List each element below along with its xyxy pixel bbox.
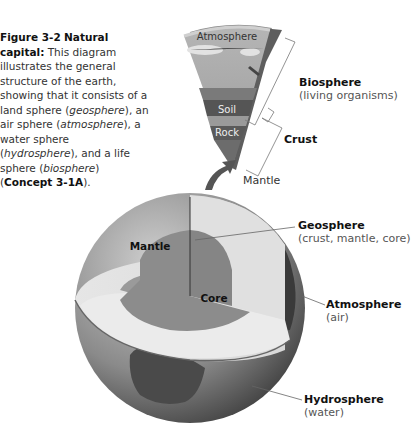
callout-title: Crust: [284, 133, 317, 146]
wedge-rock-label: Rock: [215, 127, 239, 138]
globe-mantle-label: Mantle: [130, 240, 171, 252]
callout-title: Hydrosphere: [304, 393, 384, 406]
callout-hydrosphere: Hydrosphere (water): [304, 393, 384, 419]
callout-mantle: Mantle: [243, 174, 280, 187]
globe-core-label: Core: [200, 292, 227, 304]
callout-biosphere: Biosphere (living organisms): [299, 76, 398, 102]
callout-subtitle: (air): [326, 311, 401, 324]
callout-atmosphere: Atmosphere (air): [326, 298, 401, 324]
crust-wedge: Atmosphere Soil Rock: [184, 25, 282, 170]
callout-crust: Crust: [284, 133, 317, 146]
callout-title: Atmosphere: [326, 298, 401, 311]
callout-subtitle: (living organisms): [299, 89, 398, 102]
earth-globe: Mantle Core: [75, 193, 305, 423]
callout-title: Geosphere: [298, 219, 411, 232]
callout-subtitle: (crust, mantle, core): [298, 232, 411, 245]
callout-title: Biosphere: [299, 76, 398, 89]
callout-title: Mantle: [243, 174, 280, 187]
callout-geosphere: Geosphere (crust, mantle, core): [298, 219, 411, 245]
wedge-atmosphere-label: Atmosphere: [197, 31, 258, 42]
callout-subtitle: (water): [304, 406, 384, 419]
arrow-icon: [205, 160, 236, 190]
wedge-soil-label: Soil: [218, 104, 236, 115]
